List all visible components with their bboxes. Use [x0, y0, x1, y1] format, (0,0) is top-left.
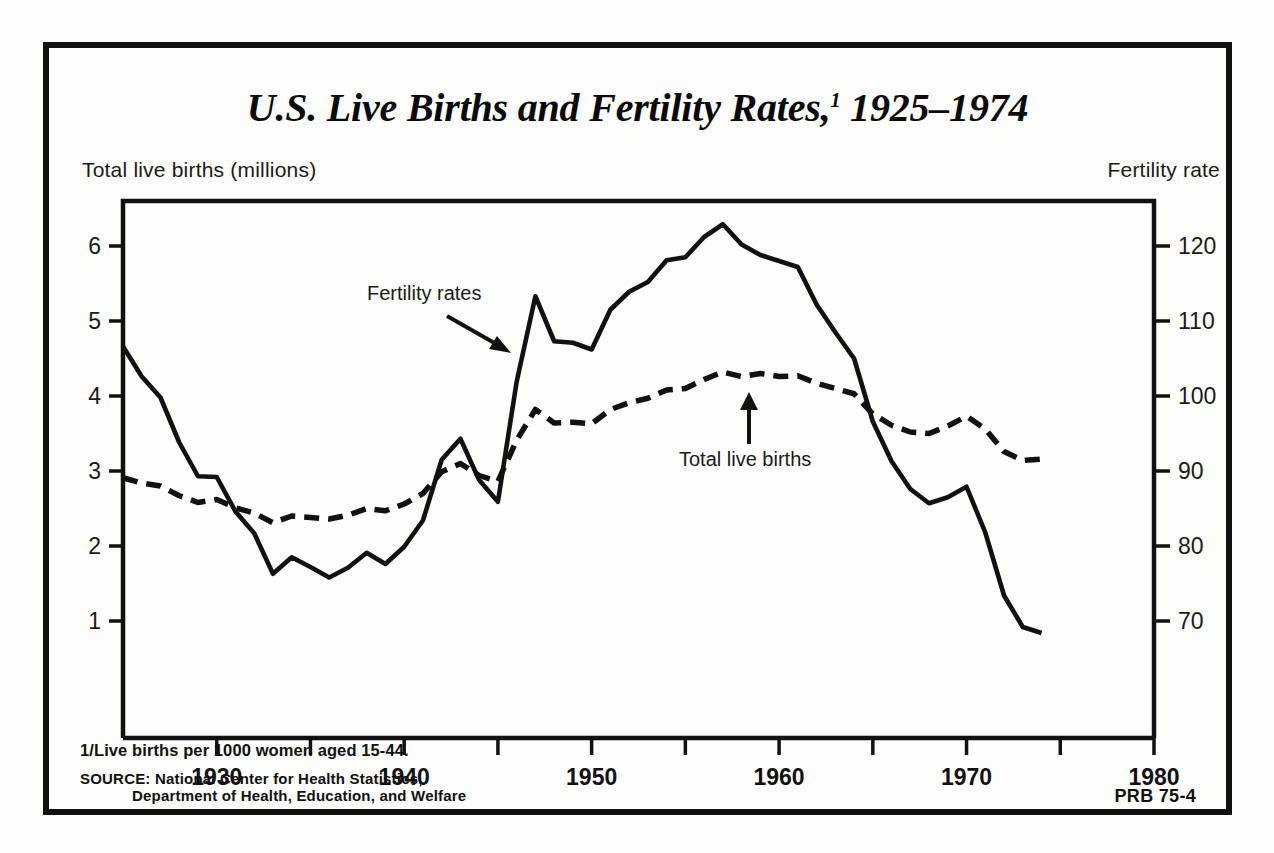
svg-text:5: 5: [88, 308, 101, 334]
poster-frame: U.S. Live Births and Fertility Rates,1 1…: [43, 42, 1232, 815]
svg-text:2: 2: [88, 533, 101, 559]
publication-code: PRB 75-4: [1115, 786, 1196, 807]
chart-area: 123456 708090100110120 19301940195019601…: [49, 48, 1238, 821]
footnote-text: 1/Live births per 1000 women aged 15-44.: [80, 741, 409, 760]
svg-text:120: 120: [1178, 233, 1216, 259]
svg-text:90: 90: [1178, 458, 1204, 484]
annotation-label-total-live-births: Total live births: [679, 448, 811, 470]
svg-text:100: 100: [1178, 383, 1216, 409]
svg-text:3: 3: [88, 458, 101, 484]
svg-text:1950: 1950: [566, 764, 617, 790]
data-series: [123, 224, 1042, 633]
svg-text:1: 1: [88, 608, 101, 634]
series-line-total_live_births: [123, 372, 1042, 523]
svg-text:80: 80: [1178, 533, 1204, 559]
svg-text:1960: 1960: [754, 764, 805, 790]
svg-text:1970: 1970: [941, 764, 992, 790]
axis-ticks: [109, 246, 1170, 755]
plot-frame: [123, 201, 1154, 738]
right-axis-tick-labels: 708090100110120: [1178, 233, 1216, 634]
left-axis-tick-labels: 123456: [88, 233, 101, 634]
chart-annotations: Fertility ratesTotal live births: [367, 282, 811, 470]
source-credit: SOURCE: National Center for Health Stati…: [80, 770, 466, 805]
source-line-1: SOURCE: National Center for Health Stati…: [80, 770, 423, 787]
svg-text:110: 110: [1178, 308, 1215, 334]
source-line-2: Department of Health, Education, and Wel…: [80, 787, 466, 804]
line-chart: 123456 708090100110120 19301940195019601…: [49, 48, 1238, 821]
annotation-label-fertility-rates: Fertility rates: [367, 282, 481, 304]
svg-text:70: 70: [1178, 608, 1204, 634]
svg-text:6: 6: [88, 233, 101, 259]
svg-text:4: 4: [88, 383, 101, 409]
